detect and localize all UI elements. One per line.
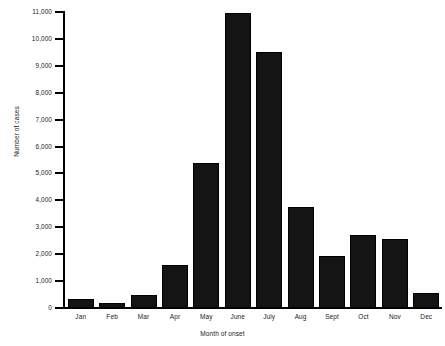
y-axis-tick-mark — [55, 253, 63, 255]
x-axis-title: Month of onset — [0, 330, 445, 337]
y-axis-tick-label: 6,000 — [0, 143, 52, 150]
bar — [350, 235, 376, 308]
bar — [68, 299, 94, 308]
y-axis-tick-mark — [55, 65, 63, 67]
x-axis-tick-label: July — [254, 313, 285, 320]
y-axis-tick-mark — [55, 280, 63, 282]
x-axis-tick-label: Sept — [316, 313, 347, 320]
y-axis-tick-label: 9,000 — [0, 62, 52, 69]
x-axis-tick-label: May — [191, 313, 222, 320]
x-axis-tick-label: Apr — [159, 313, 190, 320]
x-axis-tick-label: Aug — [285, 313, 316, 320]
bar — [99, 303, 125, 308]
y-axis-tick-mark — [55, 119, 63, 121]
y-axis-tick-mark — [55, 307, 63, 309]
bar — [131, 295, 157, 308]
y-axis-tick-label: 0 — [0, 304, 52, 311]
bar — [288, 207, 314, 308]
y-axis-tick-label: 4,000 — [0, 196, 52, 203]
bar — [382, 239, 408, 308]
y-axis-tick-label: 5,000 — [0, 169, 52, 176]
bar — [319, 256, 345, 308]
y-axis-tick-label: 11,000 — [0, 8, 52, 15]
bar — [413, 293, 439, 308]
bars-layer — [65, 11, 442, 308]
bar — [193, 163, 219, 308]
y-axis-tick-mark — [55, 146, 63, 148]
x-axis-tick-label: Oct — [348, 313, 379, 320]
bar — [256, 52, 282, 308]
y-axis-tick-label: 1,000 — [0, 277, 52, 284]
y-axis-tick-mark — [55, 92, 63, 94]
x-axis-tick-label: Dec — [411, 313, 442, 320]
bar-chart: Number of cases 01,0002,0003,0004,0005,0… — [0, 0, 445, 346]
bar — [162, 265, 188, 308]
x-axis-tick-label: Nov — [379, 313, 410, 320]
x-axis-tick-label: Feb — [96, 313, 127, 320]
y-axis-tick-mark — [55, 226, 63, 228]
y-axis-tick-mark — [55, 172, 63, 174]
y-axis-tick-label: 2,000 — [0, 250, 52, 257]
y-axis-tick-mark — [55, 38, 63, 40]
x-axis-tick-label: Mar — [128, 313, 159, 320]
y-axis-tick-label: 10,000 — [0, 35, 52, 42]
y-axis-tick-label: 7,000 — [0, 116, 52, 123]
y-axis-tick-label: 3,000 — [0, 223, 52, 230]
y-axis-tick-mark — [55, 11, 63, 13]
y-axis-tick-label: 8,000 — [0, 89, 52, 96]
x-axis-tick-label: June — [222, 313, 253, 320]
x-axis-tick-label: Jan — [65, 313, 96, 320]
y-axis-tick-mark — [55, 199, 63, 201]
bar — [225, 13, 251, 308]
